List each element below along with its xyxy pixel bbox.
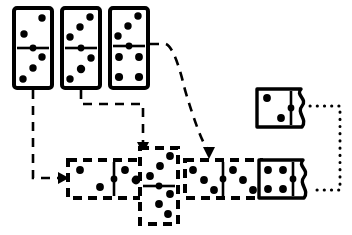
domino-divider-knob <box>78 45 85 52</box>
pip <box>29 64 36 71</box>
domino-divider-knob <box>290 176 297 183</box>
domino-diagram-canvas: Domino tile matching diagram <box>0 0 352 235</box>
pip <box>115 73 123 81</box>
domino-divider-knob <box>156 183 163 190</box>
pip <box>156 162 164 170</box>
pip <box>66 33 73 40</box>
pip <box>96 183 104 191</box>
pip <box>134 12 141 19</box>
pip <box>264 185 272 193</box>
connector-dotted-link-torn-dominoes <box>310 106 340 190</box>
pip <box>263 94 271 102</box>
connector-line <box>150 44 208 150</box>
diagram-svg: Domino tile matching diagram <box>0 0 352 235</box>
pip <box>135 53 143 61</box>
connector-line <box>310 106 340 190</box>
domino-divider-knob <box>30 45 37 52</box>
domino-chain-domino-right-dashed[interactable] <box>185 160 261 198</box>
connector-line <box>33 90 60 178</box>
pip <box>135 73 143 81</box>
pip <box>76 166 84 174</box>
domino-source-domino-1[interactable] <box>14 8 52 88</box>
pip <box>164 210 172 218</box>
pip <box>277 114 285 122</box>
domino-divider-knob <box>220 176 227 183</box>
pip <box>114 32 121 39</box>
pip <box>166 152 174 160</box>
pip <box>166 190 174 198</box>
pip <box>121 166 129 174</box>
pip <box>19 75 26 82</box>
pip <box>77 65 85 73</box>
pip <box>87 54 94 61</box>
pip <box>86 13 93 20</box>
domino-torn-domino-top[interactable] <box>257 89 304 127</box>
connector-line <box>81 90 143 144</box>
pip <box>66 75 73 82</box>
pip <box>279 185 287 193</box>
connector-arrow-from-domino-2 <box>81 90 149 154</box>
pip <box>249 186 257 194</box>
pip <box>189 166 197 174</box>
domino-source-domino-2[interactable] <box>62 8 100 88</box>
pip <box>279 166 287 174</box>
pip <box>115 53 123 61</box>
pip <box>38 53 45 60</box>
domino-divider-knob <box>288 105 295 112</box>
pip <box>239 176 247 184</box>
domino-divider-knob <box>111 176 118 183</box>
pip <box>264 166 272 174</box>
domino-chain-domino-vertical[interactable] <box>140 148 178 224</box>
pip <box>229 166 237 174</box>
connector-arrow-from-domino-3 <box>150 44 215 159</box>
pip <box>155 200 163 208</box>
connector-arrow-from-domino-1 <box>33 90 69 184</box>
pip <box>76 23 83 30</box>
pip <box>146 172 154 180</box>
domino-source-domino-3[interactable] <box>110 8 148 88</box>
arrowhead-down-icon <box>203 147 215 159</box>
pip <box>20 30 27 37</box>
domino-divider-knob <box>126 43 133 50</box>
pip <box>200 176 208 184</box>
pip <box>124 22 131 29</box>
pip <box>38 14 45 21</box>
domino-torn-domino-bottom[interactable] <box>259 160 306 198</box>
pip <box>210 186 218 194</box>
